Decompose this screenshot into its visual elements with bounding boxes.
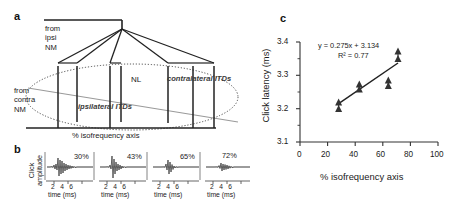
data-point-1-marker-lower — [335, 105, 342, 112]
panel-c-x-tick-label-20: 20 — [321, 150, 330, 160]
panel-a-nl-label: NL — [131, 75, 141, 85]
panel-c-y-tick-label-3-1: 3.1 — [277, 137, 288, 147]
panel-b-y-axis-label: Click amplitude — [22, 150, 38, 200]
trace-2-x-axis-label: time (ms) — [101, 191, 129, 199]
trace-3-waveform — [153, 160, 199, 174]
delay-gradient-line — [28, 88, 238, 122]
data-point-2 — [356, 81, 363, 93]
panel-c-x-tick-label-40: 40 — [349, 150, 358, 160]
panel-c-r-squared-label: R² = 0.77 — [338, 51, 369, 60]
panel-a-contra-label: from contra NM — [14, 86, 35, 114]
panel-c-y-tick-label-3-4: 3.4 — [277, 37, 288, 47]
panel-a-contralateral-itds-label: contralateral ITDs — [167, 74, 231, 83]
panel-a-ipsilateral-itds-label: ipsilateral ITDs — [78, 102, 132, 111]
trace-1-tick-labels: 2 4 6 — [51, 183, 73, 191]
trace-2-tick-labels: 2 4 6 — [104, 183, 126, 191]
data-point-3 — [385, 77, 392, 90]
panel-c-x-tick-label-100: 100 — [430, 150, 444, 160]
panel-c-y-axis-label-text: Click latency (ms) — [260, 28, 271, 143]
panel-c-x-tick-label-0: 0 — [297, 150, 302, 160]
ipsi-collateral-5 — [122, 29, 214, 63]
trace-3-x-axis-label: time (ms) — [154, 191, 182, 199]
trace-1-percent-label: 30% — [74, 152, 89, 161]
trace-4-x-axis-label: time (ms) — [207, 191, 235, 199]
data-point-4 — [395, 48, 402, 63]
trace-4-tick-labels: 2 4 6 — [210, 183, 232, 191]
data-point-1 — [335, 99, 342, 113]
trace-3-tick-labels: 2 4 6 — [157, 183, 179, 191]
panel-c-y-tick-label-3-2: 3.2 — [277, 104, 288, 114]
panel-c-x-tick-label-80: 80 — [404, 150, 413, 160]
trace-4-percent-label: 72% — [222, 151, 237, 160]
panel-c-x-axis-label: % isofrequency axis — [320, 171, 403, 182]
data-point-4-marker — [395, 48, 402, 55]
panel-c-equation-label: y = 0.275x + 3.134 — [318, 41, 379, 50]
panel-a-diagram — [0, 0, 250, 140]
trace-2-percent-label: 43% — [127, 152, 142, 161]
panel-c-y-axis-label: Click latency (ms) — [258, 30, 272, 145]
trace-1-x-axis-label: time (ms) — [48, 191, 76, 199]
ipsi-collateral-2 — [77, 29, 122, 63]
trace-3-percent-label: 65% — [180, 152, 195, 161]
panel-b-y-axis-label-line2: amplitude — [35, 146, 44, 196]
panel-a-axis-label: % isofrequency axis — [72, 131, 140, 140]
panel-c-y-tick-label-3-3: 3.3 — [277, 70, 288, 80]
data-point-4-marker-lower — [395, 55, 402, 62]
panel-c-x-tick-label-60: 60 — [376, 150, 385, 160]
panel-b-letter: b — [14, 143, 21, 155]
figure-container: a from ipsi NM from contra NM NL — [0, 0, 456, 203]
panel-c-letter: c — [280, 12, 286, 24]
ipsi-collateral-4 — [122, 29, 168, 63]
panel-a-ipsi-label: from ipsi NM — [45, 24, 60, 52]
